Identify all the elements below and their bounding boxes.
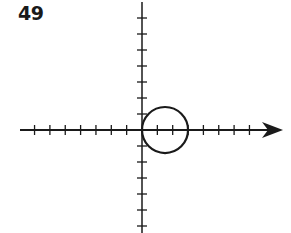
axes: [20, 2, 283, 233]
plot: [0, 0, 291, 233]
